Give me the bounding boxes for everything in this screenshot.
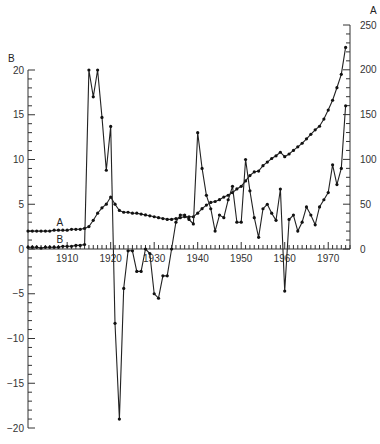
series-b-point — [131, 249, 134, 252]
series-a-point — [66, 229, 69, 232]
series-b-point — [109, 125, 112, 128]
series-a-point — [140, 212, 143, 215]
series-b-point — [244, 158, 247, 161]
series-a-point — [274, 154, 277, 157]
series-a-point — [222, 195, 225, 198]
series-a-point — [331, 99, 334, 102]
right-tick-label: 200 — [360, 64, 377, 75]
series-b-point — [144, 247, 147, 250]
series-b-point — [309, 213, 312, 216]
series-b-point — [222, 216, 225, 219]
series-b-point — [287, 218, 290, 221]
left-tick-label: 0 — [18, 244, 24, 255]
series-a-point — [131, 212, 134, 215]
series-b-point — [231, 185, 234, 188]
series-a-point — [96, 212, 99, 215]
series-a-point — [87, 225, 90, 228]
series-b-point — [140, 270, 143, 273]
series-a-point — [296, 145, 299, 148]
x-tick-label: 1920 — [100, 253, 123, 264]
series-a-point — [327, 109, 330, 112]
series-b-point — [279, 187, 282, 190]
series-b-point — [179, 213, 182, 216]
series-b-point — [283, 289, 286, 292]
series-b-point — [174, 221, 177, 224]
series-a-point — [309, 133, 312, 136]
series-a-point — [240, 185, 243, 188]
series-b-point — [66, 245, 69, 248]
series-a-point — [144, 213, 147, 216]
series-b-point — [218, 213, 221, 216]
right-axis-title: A — [370, 5, 377, 16]
series-b-point — [196, 131, 199, 134]
series-b-point — [331, 163, 334, 166]
left-tick-label: 15 — [13, 109, 25, 120]
series-a-point — [100, 206, 103, 209]
series-a-point — [61, 229, 64, 232]
series-b-point — [322, 198, 325, 201]
right-tick-label: 100 — [360, 154, 377, 165]
series-a-point — [53, 229, 56, 232]
series-b-point — [314, 223, 317, 226]
left-tick-label: 10 — [13, 154, 25, 165]
series-a-point — [218, 198, 221, 201]
series-a-label: A — [56, 217, 63, 228]
series-a-point — [31, 229, 34, 232]
series-a-point — [257, 169, 260, 172]
series-b-point — [327, 191, 330, 194]
series-b-point — [113, 322, 116, 325]
series-a-point — [26, 229, 29, 232]
series-b-point — [126, 249, 129, 252]
series-a-point — [335, 86, 338, 89]
right-tick-label: 50 — [360, 199, 372, 210]
series-layer — [26, 46, 347, 421]
x-tick-label: 1960 — [274, 253, 297, 264]
series-a-point — [322, 117, 325, 120]
series-a-point — [170, 218, 173, 221]
series-b-point — [192, 222, 195, 225]
series-b-point — [96, 68, 99, 71]
series-a-point — [200, 207, 203, 210]
series-a-point — [74, 228, 77, 231]
series-b-point — [296, 230, 299, 233]
series-b-point — [79, 244, 82, 247]
left-tick-label: 5 — [18, 199, 24, 210]
series-b-point — [187, 218, 190, 221]
series-a-point — [301, 142, 304, 145]
series-b-point — [227, 198, 230, 201]
series-a-point — [279, 151, 282, 154]
series-b-point — [335, 183, 338, 186]
left-axis-title: B — [8, 53, 15, 64]
series-b-point — [253, 216, 256, 219]
left-tick-label: 20 — [13, 65, 25, 76]
series-a-point — [214, 200, 217, 203]
series-b-point — [39, 247, 42, 250]
series-a-point — [126, 211, 129, 214]
series-b-point — [148, 252, 151, 255]
series-b-point — [205, 194, 208, 197]
series-b-point — [214, 230, 217, 233]
right-tick-label: 250 — [360, 20, 377, 31]
series-b-point — [261, 207, 264, 210]
left-tick-label: −5 — [13, 288, 25, 299]
series-a-point — [135, 212, 138, 215]
series-b-point — [209, 207, 212, 210]
series-b-point — [53, 246, 56, 249]
right-tick-label: 0 — [360, 244, 366, 255]
series-b-point — [100, 116, 103, 119]
series-a-point — [292, 149, 295, 152]
series-a-point — [253, 170, 256, 173]
series-b-point — [270, 212, 273, 215]
series-b-point — [292, 213, 295, 216]
series-a-point — [35, 229, 38, 232]
series-a-point — [148, 214, 151, 217]
series-a-point — [48, 229, 51, 232]
series-b-point — [166, 274, 169, 277]
series-a-point — [235, 187, 238, 190]
series-a-point — [305, 137, 308, 140]
right-tick-label: 150 — [360, 109, 377, 120]
series-a-point — [57, 229, 60, 232]
series-a-point — [70, 228, 73, 231]
series-a-point — [318, 125, 321, 128]
series-a-point — [166, 218, 169, 221]
